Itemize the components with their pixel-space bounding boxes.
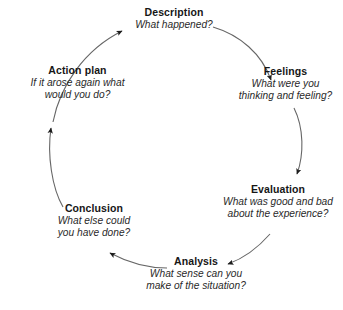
arrow-conclusion-to-action-plan — [50, 128, 63, 207]
stage-conclusion: Conclusion What else could you have done… — [34, 202, 154, 239]
stage-description: Description What happened? — [104, 6, 244, 31]
stage-analysis: Analysis What sense can you make of the … — [136, 255, 256, 292]
stage-conclusion-question: What else could you have done? — [34, 215, 154, 239]
stage-description-title: Description — [104, 6, 244, 18]
stage-evaluation: Evaluation What was good and bad about t… — [213, 183, 343, 220]
stage-analysis-question: What sense can you make of the situation… — [136, 268, 256, 292]
stage-evaluation-title: Evaluation — [213, 183, 343, 195]
stage-feelings-question: What were you thinking and feeling? — [228, 78, 343, 102]
reflective-cycle-diagram: Description What happened? Feelings What… — [0, 0, 343, 310]
stage-action-plan-title: Action plan — [10, 64, 145, 76]
stage-action-plan: Action plan If it arose again what would… — [10, 64, 145, 101]
stage-analysis-title: Analysis — [136, 255, 256, 267]
stage-conclusion-title: Conclusion — [34, 202, 154, 214]
stage-feelings-title: Feelings — [228, 65, 343, 77]
stage-evaluation-question: What was good and bad about the experien… — [213, 196, 343, 220]
arrow-feelings-to-evaluation — [294, 108, 302, 174]
stage-description-question: What happened? — [104, 19, 244, 31]
stage-feelings: Feelings What were you thinking and feel… — [228, 65, 343, 102]
stage-action-plan-question: If it arose again what would you do? — [10, 77, 145, 101]
